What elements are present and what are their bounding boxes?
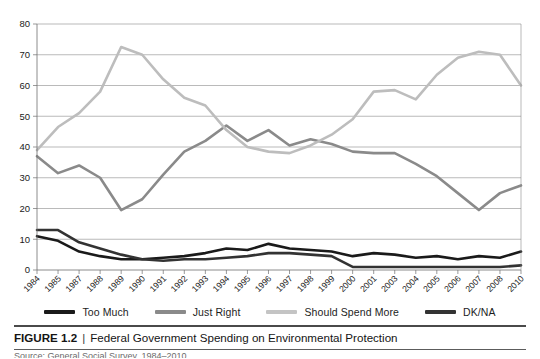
legend-swatch-dk-na [425,310,456,314]
x-axis-label-1996: 1996 [253,273,274,294]
x-axis-label-2008: 2008 [484,273,505,294]
x-axis-label-1994: 1994 [211,273,232,294]
legend-item-just-right: Just Right [155,306,241,318]
x-axis-label-2007: 2007 [463,273,484,294]
source-note: Source: General Social Survey, 1984–2010… [0,350,540,358]
figure-title: Federal Government Spending on Environme… [90,331,397,344]
legend-item-too-much: Too Much [44,306,128,318]
y-axis-ticks [33,24,37,270]
legend-swatch-should-spend-more [266,310,297,314]
y-axis-label-20: 20 [19,203,30,214]
x-axis-label-2006: 2006 [442,273,463,294]
y-axis-label-80: 80 [19,18,30,29]
data-series [37,47,521,267]
x-axis-label-2001: 2001 [358,273,379,294]
figure-number: FIGURE 1.2 [14,331,77,344]
series-line-just-right [37,125,521,210]
x-axis-label-1993: 1993 [190,273,211,294]
legend-label-should-spend-more: Should Spend More [304,306,399,318]
y-axis-label-0: 0 [25,264,30,275]
y-axis-label-60: 60 [19,80,30,91]
x-axis-label-1988: 1988 [84,273,105,294]
series-line-too-much [37,236,521,259]
legend-item-should-spend-more: Should Spend More [266,306,399,318]
x-axis-label-2003: 2003 [379,273,400,294]
x-axis-label-1991: 1991 [148,273,169,294]
y-axis-label-30: 30 [19,172,30,183]
y-axis-label-50: 50 [19,111,30,122]
y-axis-label-10: 10 [19,234,30,245]
legend-label-dk-na: DK/NA [463,306,496,318]
figure-caption: FIGURE 1.2 | Federal Government Spending… [0,327,540,346]
chart-plot-area: 01020304050607080 1984198519871988198919… [0,0,540,300]
x-axis-label-1989: 1989 [105,273,126,294]
legend-label-just-right: Just Right [193,306,241,318]
x-axis-label-2005: 2005 [421,273,442,294]
x-axis-label-1992: 1992 [169,273,190,294]
x-axis-label-1995: 1995 [232,273,253,294]
x-axis-label-2000: 2000 [337,273,358,294]
legend-label-too-much: Too Much [82,306,128,318]
x-axis-label-1984: 1984 [21,273,42,294]
legend-swatch-just-right [155,310,186,314]
legend-item-dk-na: DK/NA [425,306,496,318]
x-axis-label-2004: 2004 [400,273,421,294]
x-axis-labels: 1984198519871988198919901991199219931994… [21,273,526,294]
x-axis-label-1985: 1985 [42,273,63,294]
chart-legend: Too Much Just Right Should Spend More DK… [0,302,540,322]
x-axis-label-1987: 1987 [63,273,84,294]
figure-caption-block: FIGURE 1.2 | Federal Government Spending… [0,325,540,358]
x-axis-label-1999: 1999 [316,273,337,294]
y-axis-label-40: 40 [19,141,30,152]
line-chart-svg: 01020304050607080 1984198519871988198919… [0,0,540,300]
y-axis-label-70: 70 [19,49,30,60]
figure-container: 01020304050607080 1984198519871988198919… [0,0,540,359]
x-axis-label-2010: 2010 [505,273,526,294]
legend-swatch-too-much [44,310,75,314]
caption-separator: | [82,331,85,344]
x-axis-label-1998: 1998 [295,273,316,294]
gridlines [37,24,521,239]
x-axis-ticks [37,270,521,274]
series-line-dk-na [37,230,521,267]
y-axis-labels: 01020304050607080 [19,18,30,275]
x-axis-label-1990: 1990 [127,273,148,294]
x-axis-label-1997: 1997 [274,273,295,294]
